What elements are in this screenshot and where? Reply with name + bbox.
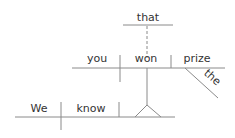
main-subject-word: We bbox=[31, 102, 48, 115]
modifier-word: the bbox=[201, 67, 223, 89]
connector-word: that bbox=[137, 11, 160, 24]
clause-verb-word: won bbox=[135, 52, 158, 65]
sentence-diagram: that you won prize the We know bbox=[0, 0, 235, 138]
clause-object-word: prize bbox=[183, 52, 210, 65]
clause-subject-word: you bbox=[87, 52, 107, 65]
main-verb-word: know bbox=[76, 102, 105, 115]
pedestal bbox=[135, 105, 161, 117]
